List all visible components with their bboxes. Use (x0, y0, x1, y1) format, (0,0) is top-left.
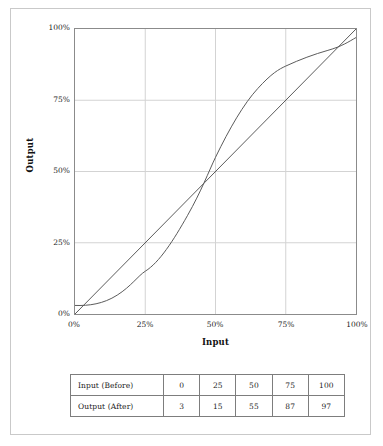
y-tick-100: 100% (28, 24, 70, 32)
row-label-input-before: Input (Before) (71, 375, 164, 396)
table-row: Output (After) 3 15 55 87 97 (71, 396, 345, 417)
cell-input-50: 50 (236, 375, 272, 396)
cell-input-0: 0 (164, 375, 200, 396)
data-table-container: Input (Before) 0 25 50 75 100 Output (Af… (70, 374, 345, 417)
cell-input-25: 25 (200, 375, 236, 396)
y-axis-title: Output (25, 120, 35, 190)
cell-output-25: 15 (200, 396, 236, 417)
x-tick-100: 100% (335, 321, 379, 329)
cell-output-0: 3 (164, 396, 200, 417)
data-table: Input (Before) 0 25 50 75 100 Output (Af… (70, 374, 345, 417)
x-tick-25: 25% (123, 321, 167, 329)
x-axis-title: Input (74, 337, 357, 347)
x-tick-50: 50% (193, 321, 237, 329)
y-tick-75: 75% (28, 96, 70, 104)
cell-input-100: 100 (308, 375, 344, 396)
cell-input-75: 75 (272, 375, 308, 396)
cell-output-100: 97 (308, 396, 344, 417)
y-tick-25: 25% (28, 239, 70, 247)
plot-canvas (75, 29, 356, 314)
cell-output-50: 55 (236, 396, 272, 417)
x-tick-75: 75% (264, 321, 308, 329)
x-tick-0: 0% (52, 321, 96, 329)
y-tick-0: 0% (28, 310, 70, 318)
row-label-output-after: Output (After) (71, 396, 164, 417)
cell-output-75: 87 (272, 396, 308, 417)
tone-curve-chart: 100% 75% 50% 25% 0% 0% 25% 50% 75% 100% … (0, 0, 383, 360)
table-row: Input (Before) 0 25 50 75 100 (71, 375, 345, 396)
figure-root: 100% 75% 50% 25% 0% 0% 25% 50% 75% 100% … (0, 0, 383, 446)
plot-area (74, 28, 357, 315)
